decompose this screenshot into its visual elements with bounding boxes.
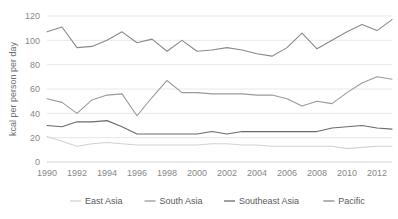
x-tick-label: 2008 xyxy=(307,168,327,178)
series-line-pacific xyxy=(47,20,392,57)
y-tick-label: 0 xyxy=(35,157,40,167)
y-tick-label: 40 xyxy=(30,109,40,119)
x-tick-label: 2010 xyxy=(337,168,357,178)
series-lines-group xyxy=(47,20,392,149)
x-tick-label: 2002 xyxy=(217,168,237,178)
x-tick-label: 2012 xyxy=(367,168,387,178)
x-tick-label: 2000 xyxy=(187,168,207,178)
line-chart: 020406080100120 199019921994199619982000… xyxy=(0,0,398,219)
x-tick-label: 2006 xyxy=(277,168,297,178)
x-axis-tick-labels: 1990199219941996199820002002200420062008… xyxy=(37,168,387,178)
gridlines-group xyxy=(47,16,392,162)
x-tick-label: 1996 xyxy=(127,168,147,178)
y-tick-label: 100 xyxy=(25,36,40,46)
y-axis-label: kcal per person per day xyxy=(8,41,18,136)
x-tick-label: 1992 xyxy=(67,168,87,178)
legend: East AsiaSouth AsiaSoutheast AsiaPacific xyxy=(70,196,365,206)
legend-label-pacific: Pacific xyxy=(338,196,365,206)
y-tick-label: 80 xyxy=(30,60,40,70)
y-tick-label: 120 xyxy=(25,11,40,21)
x-tick-label: 2004 xyxy=(247,168,267,178)
y-axis-tick-labels: 020406080100120 xyxy=(25,11,40,167)
chart-container: 020406080100120 199019921994199619982000… xyxy=(0,0,398,219)
x-tick-label: 1998 xyxy=(157,168,177,178)
x-tick-label: 1990 xyxy=(37,168,57,178)
legend-label-east-asia: East Asia xyxy=(85,196,123,206)
series-line-southeast-asia xyxy=(47,121,392,134)
series-line-east-asia xyxy=(47,136,392,148)
series-line-south-asia xyxy=(47,77,392,116)
legend-label-south-asia: South Asia xyxy=(160,196,203,206)
y-tick-label: 20 xyxy=(30,133,40,143)
legend-label-southeast-asia: Southeast Asia xyxy=(239,196,299,206)
x-tick-label: 1994 xyxy=(97,168,117,178)
y-tick-label: 60 xyxy=(30,84,40,94)
